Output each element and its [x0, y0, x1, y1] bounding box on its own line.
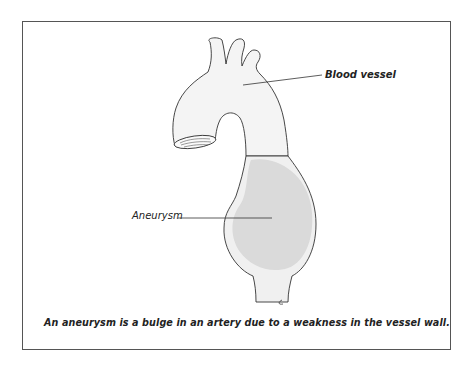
blood-vessel-label: Blood vessel [325, 69, 396, 80]
diagram-caption: An aneurysm is a bulge in an artery due … [44, 317, 450, 328]
aneurysm-shape [224, 156, 316, 304]
blood-vessel-shape [173, 38, 288, 156]
aorta-illustration [0, 0, 468, 370]
aneurysm-label: Aneurysm [132, 210, 183, 221]
